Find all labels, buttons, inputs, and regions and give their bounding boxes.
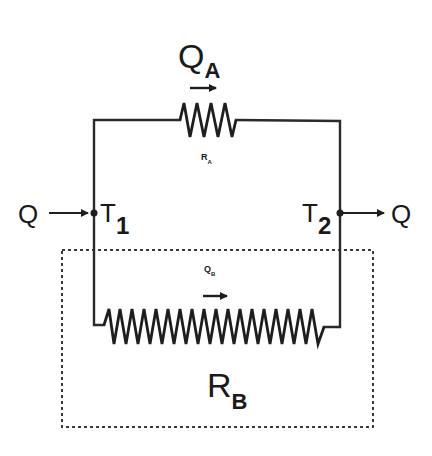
node-t2-label: T2 [302, 198, 331, 239]
heat-in-label: Q [18, 199, 38, 229]
heat-out-label: Q [391, 199, 411, 229]
resistor-a-zigzag [180, 103, 236, 137]
node-t1-label: T1 [100, 198, 129, 239]
upper-branch [94, 88, 340, 213]
resistor-a-label: RA [201, 152, 213, 165]
upper-right-wire [236, 120, 340, 213]
lower-left-wire [94, 213, 104, 325]
circuit-diagram: QA RA Q Q T1 T2 QB RB [0, 0, 432, 456]
lower-branch [94, 213, 340, 344]
node-t2 [337, 210, 344, 217]
resistor-b-label: RB [207, 366, 247, 414]
flow-a-label: QA [178, 37, 220, 83]
resistor-b-zigzag [104, 309, 324, 344]
node-t1 [91, 210, 98, 217]
flow-b-label: QB [204, 264, 216, 277]
